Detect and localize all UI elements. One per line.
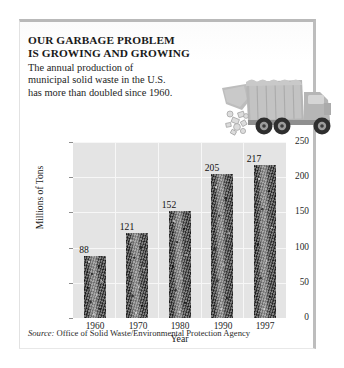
- data-label-1980: 152: [147, 199, 191, 210]
- bar-1997[interactable]: [254, 165, 276, 318]
- bar-chart: Millions of Tons 250 200 150 100 50 0: [28, 120, 309, 325]
- data-label-1960: 88: [62, 244, 106, 255]
- bar-1980[interactable]: [169, 211, 191, 318]
- chart-title-line-2: IS GROWING AND GROWING: [28, 47, 218, 60]
- bar-texture: [254, 165, 276, 318]
- source-note: Source: Office of Solid Waste/Environmen…: [28, 328, 250, 338]
- bar-texture: [169, 211, 191, 318]
- y-tick-mark: [69, 318, 73, 319]
- chart-card: OUR GARBAGE PROBLEM IS GROWING AND GROWI…: [19, 19, 316, 349]
- data-label-1997: 217: [232, 153, 276, 164]
- gridline-vertical: [158, 142, 159, 318]
- card-surface: OUR GARBAGE PROBLEM IS GROWING AND GROWI…: [20, 22, 313, 348]
- bar-texture: [211, 174, 233, 318]
- data-label-1970: 121: [105, 221, 149, 232]
- bar-1970[interactable]: [126, 233, 148, 318]
- source-text: Office of Solid Waste/Environmental Prot…: [54, 328, 250, 338]
- source-label: Source:: [28, 328, 54, 338]
- bar-1990[interactable]: [211, 174, 233, 318]
- data-label-1990: 205: [190, 162, 234, 173]
- headline-block: OUR GARBAGE PROBLEM IS GROWING AND GROWI…: [28, 34, 218, 99]
- gridline-horizontal: [73, 142, 286, 143]
- chart-subtitle-line-3: has more than doubled since 1960.: [28, 87, 218, 99]
- bar-texture: [126, 233, 148, 318]
- chart-subtitle-line-1: The annual production of: [28, 62, 218, 74]
- chart-subtitle: The annual production of municipal solid…: [28, 62, 218, 99]
- chart-subtitle-line-2: municipal solid waste in the U.S.: [28, 74, 218, 86]
- bar-texture: [84, 256, 106, 318]
- y-axis-title: Millions of Tons: [34, 138, 45, 258]
- chart-title-line-1: OUR GARBAGE PROBLEM: [28, 34, 218, 47]
- bar-1960[interactable]: [84, 256, 106, 318]
- gridline-vertical: [243, 142, 244, 318]
